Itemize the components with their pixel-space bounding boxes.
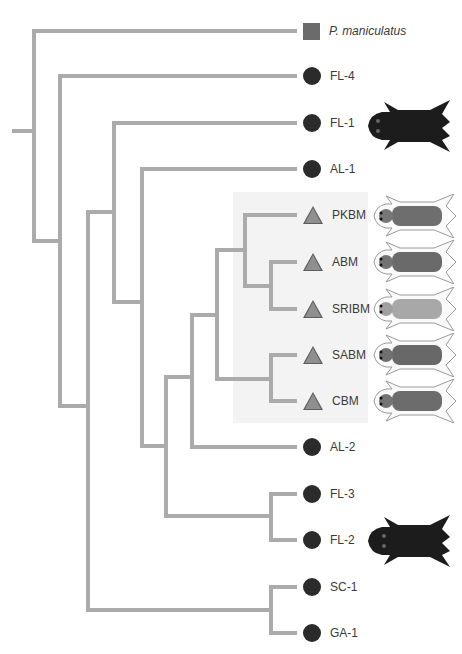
node-a: [60, 76, 295, 406]
circle-marker-icon: [303, 114, 321, 132]
node-root: [34, 31, 295, 241]
light-pelt-cbm-image: [372, 379, 458, 423]
taxon-label: SC-1: [330, 580, 357, 594]
taxon-label: FL-1: [330, 116, 355, 130]
taxon-cbm: CBM: [303, 391, 359, 411]
circle-marker-icon: [303, 67, 321, 85]
taxon-label: FL-3: [330, 487, 355, 501]
taxon-label: P. maniculatus: [329, 24, 406, 38]
circle-marker-icon: [303, 485, 321, 503]
triangle-marker-icon: [303, 253, 323, 271]
circle-marker-icon: [303, 578, 321, 596]
taxon-label: FL-4: [330, 69, 355, 83]
taxon-label: SABM: [332, 348, 366, 362]
taxon-label: AL-2: [330, 440, 355, 454]
taxon-label: PKBM: [332, 208, 366, 222]
node-abm-sribm: [271, 262, 295, 309]
taxon-label: AL-1: [330, 162, 355, 176]
taxon-label: SRIBM: [332, 302, 370, 316]
taxon-fl-1: FL-1: [303, 113, 355, 133]
circle-marker-icon: [303, 160, 321, 178]
light-pelt-pkbm-image: [372, 194, 458, 238]
taxon-ga-1: GA-1: [303, 623, 358, 643]
taxon-fl-3: FL-3: [303, 484, 355, 504]
pale-pelt-sribm-image: [372, 287, 458, 331]
node-fl3-fl2: [271, 494, 295, 540]
taxon-label: FL-2: [330, 533, 355, 547]
taxon-al-1: AL-1: [303, 159, 355, 179]
taxon-abm: ABM: [303, 252, 358, 272]
taxon-pkbm: PKBM: [303, 205, 366, 225]
dark-pelt-fl-2-image: [362, 515, 458, 567]
taxon-label: CBM: [332, 394, 359, 408]
node-sabm-cbm: [271, 355, 295, 401]
taxon-al-2: AL-2: [303, 437, 355, 457]
light-pelt-abm-image: [372, 240, 458, 284]
triangle-marker-icon: [303, 392, 323, 410]
taxon-sc-1: SC-1: [303, 577, 357, 597]
taxon-label: GA-1: [330, 626, 358, 640]
triangle-marker-icon: [303, 300, 323, 318]
circle-marker-icon: [303, 438, 321, 456]
square-marker-icon: [303, 23, 320, 40]
circle-marker-icon: [303, 531, 321, 549]
taxon-sribm: SRIBM: [303, 299, 370, 319]
triangle-marker-icon: [303, 346, 323, 364]
taxon-sabm: SABM: [303, 345, 366, 365]
circle-marker-icon: [303, 624, 321, 642]
light-pelt-sabm-image: [372, 333, 458, 377]
taxon-p-maniculatus: P. maniculatus: [303, 21, 406, 41]
taxon-fl-4: FL-4: [303, 66, 355, 86]
dark-pelt-fl-1-image: [364, 100, 456, 152]
taxon-label: ABM: [332, 255, 358, 269]
node-sc1-ga1: [271, 587, 295, 633]
taxon-fl-2: FL-2: [303, 530, 355, 550]
triangle-marker-icon: [303, 206, 323, 224]
